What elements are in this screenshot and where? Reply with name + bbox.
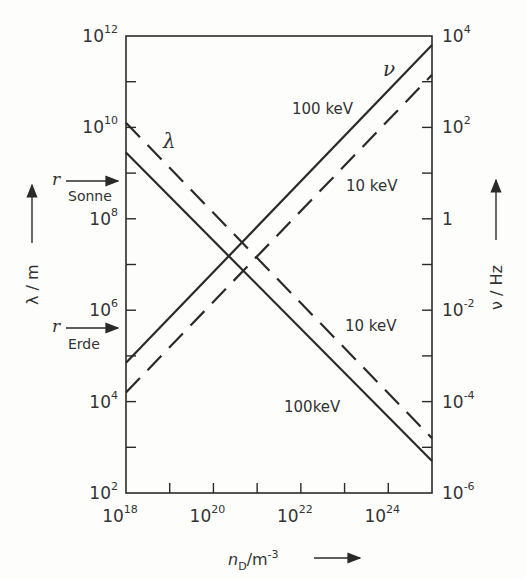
x-tick-label: 1024 <box>364 503 400 526</box>
plasma-parameter-chart: 10181020102210241021041061081010101210-6… <box>0 0 526 579</box>
y-right-tick-label: 10-4 <box>442 389 475 412</box>
sonne-r-label: r <box>52 169 61 189</box>
x-tick-label: 1020 <box>190 503 226 526</box>
y-left-tick-label: 104 <box>89 389 118 412</box>
y-right-tick-label: 1 <box>442 209 453 229</box>
y-left-tick-label: 106 <box>89 297 118 320</box>
curve-λ-10keV <box>126 123 432 438</box>
curve-ν-10keV <box>126 75 432 393</box>
y-right-tick-label: 10-6 <box>442 480 475 503</box>
curve-ν-100keV <box>126 45 432 363</box>
y-right-tick-label: 10-2 <box>442 297 475 320</box>
curve-λ-100keV <box>126 153 432 462</box>
nu-100kev-label: 100 keV <box>292 100 354 118</box>
x-tick-label: 1022 <box>277 503 313 526</box>
erde-r-label: r <box>52 316 61 336</box>
lambda-symbol-label: λ <box>162 129 176 153</box>
y-left-tick-label: 108 <box>89 206 118 229</box>
axis-tick-labels: 10181020102210241021041061081010101210-6… <box>82 23 474 526</box>
y-left-tick-label: 102 <box>89 480 118 503</box>
plot-frame <box>126 36 432 493</box>
y-left-tick-label: 1010 <box>82 114 118 137</box>
lambda-100kev-label: 100keV <box>284 398 341 416</box>
y-right-title: ν / Hz <box>487 265 506 310</box>
data-curves <box>126 45 432 461</box>
y-left-title: λ / m <box>23 264 42 305</box>
y-right-tick-label: 102 <box>442 114 471 137</box>
x-title: nD/m-3 <box>228 548 279 573</box>
lambda-10kev-label: 10 keV <box>345 317 397 335</box>
y-right-tick-label: 104 <box>442 23 471 46</box>
x-tick-label: 1018 <box>102 503 138 526</box>
nu-symbol-label: ν <box>383 57 395 81</box>
y-left-tick-label: 1012 <box>82 23 118 46</box>
sonne-label: Sonne <box>68 188 112 204</box>
nu-10kev-label: 10 keV <box>346 177 398 195</box>
erde-label: Erde <box>68 336 100 352</box>
